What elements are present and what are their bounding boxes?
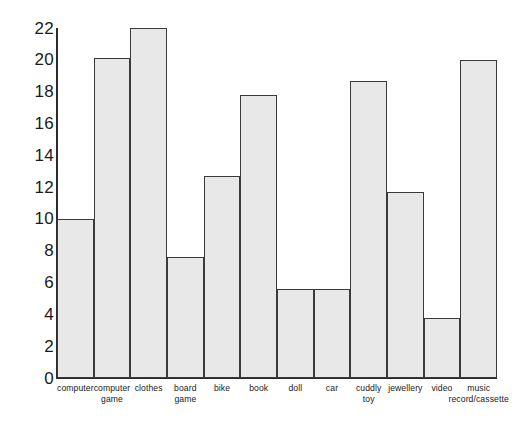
- y-axis-tick-label: 18: [2, 83, 54, 100]
- x-axis-tick-label: musicrecord/cassette: [444, 383, 514, 404]
- y-axis-tick-label: 8: [2, 242, 54, 259]
- bar-cuddly-toy: [350, 81, 387, 379]
- y-axis-tick-label: 4: [2, 306, 54, 323]
- x-axis-tick-label-line: game: [151, 394, 221, 405]
- y-axis-tick-label: 12: [2, 179, 54, 196]
- x-axis-tick-labels: computercomputergameclothesboardgamebike…: [57, 383, 497, 432]
- bar-board-game: [167, 257, 204, 378]
- y-axis-tick-label: 10: [2, 210, 54, 227]
- bar-computer: [57, 219, 94, 378]
- plot-area: [57, 28, 497, 378]
- y-axis-tick-label: 6: [2, 274, 54, 291]
- bar-computer-game: [94, 58, 131, 378]
- bars-layer: [57, 28, 497, 378]
- x-axis-tick-label-line: game: [77, 394, 147, 405]
- bar-car: [314, 289, 351, 378]
- bar-chart: 22 20 18 16 14 12 10 8 6 4 2 0 computer: [0, 0, 519, 432]
- bar-video: [424, 318, 461, 378]
- bar-book: [240, 95, 277, 378]
- y-axis-tick-label: 20: [2, 51, 54, 68]
- x-axis-tick-label-line: toy: [334, 394, 404, 405]
- bar-music-record-cassette: [460, 60, 497, 378]
- x-axis-tick-label-line: music: [444, 383, 514, 394]
- y-axis-tick-label: 14: [2, 147, 54, 164]
- bar-jewellery: [387, 192, 424, 378]
- bar-clothes: [130, 28, 167, 378]
- bar-bike: [204, 176, 241, 378]
- bar-doll: [277, 289, 314, 378]
- y-axis-tick-label: 16: [2, 115, 54, 132]
- y-axis-tick-label: 22: [2, 20, 54, 37]
- y-axis-tick-labels: 22 20 18 16 14 12 10 8 6 4 2 0: [0, 0, 54, 432]
- x-axis-tick-label-line: record/cassette: [444, 394, 514, 405]
- y-axis-tick-label: 2: [2, 338, 54, 355]
